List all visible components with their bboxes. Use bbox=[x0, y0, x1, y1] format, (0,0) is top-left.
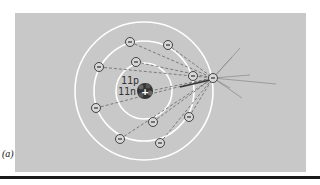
neutron-count-label: 11n bbox=[118, 86, 136, 97]
atom-diagram: + bbox=[0, 0, 320, 185]
nucleus-charge: + bbox=[142, 85, 149, 98]
electron-trajectories bbox=[96, 42, 213, 143]
nucleus: + bbox=[137, 83, 153, 99]
scatter-rays bbox=[213, 48, 276, 98]
figure-caption: (a) bbox=[2, 148, 14, 159]
proton-count-label: 11p bbox=[121, 75, 139, 86]
electron-signs bbox=[94, 42, 215, 143]
divider-bar bbox=[0, 176, 320, 179]
